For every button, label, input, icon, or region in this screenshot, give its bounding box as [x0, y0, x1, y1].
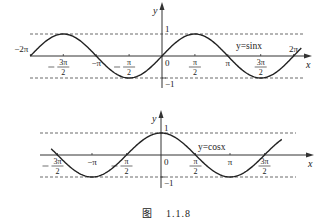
- y-tick-label-neg-1: −1: [165, 79, 175, 89]
- x-tick-denominator: 2: [124, 167, 128, 176]
- x-tick: π2: [190, 153, 202, 176]
- cosine-graph: xy1−103π2−ππ2π2π3π2y=cosx: [40, 110, 314, 188]
- x-tick-label: π: [226, 58, 231, 68]
- x-axis-label: x: [305, 59, 311, 70]
- x-tick: 3π2: [48, 54, 69, 77]
- y-tick-label-neg-1: −1: [164, 178, 174, 188]
- x-tick-label: −2π: [14, 44, 29, 54]
- caption-number: 1.1.8: [166, 208, 191, 219]
- trig-function-figure: xy1−10−2π3π2−ππ2π2π3π22πy=sinx xy1−103π2…: [0, 0, 324, 224]
- x-tick-numerator: π: [124, 157, 128, 166]
- x-tick-numerator: 3π: [257, 58, 265, 67]
- origin-label: 0: [164, 157, 169, 167]
- x-axis-label: x: [307, 158, 313, 169]
- x-tick: 3π2: [42, 153, 63, 176]
- x-axis-arrow-icon: [306, 153, 314, 158]
- x-tick-denominator: 2: [194, 167, 198, 176]
- x-tick-numerator: π: [193, 58, 197, 67]
- x-tick-denominator: 2: [127, 68, 131, 77]
- x-tick-denominator: 2: [259, 68, 263, 77]
- x-tick: π2: [189, 54, 201, 77]
- x-tick: −2π: [14, 44, 30, 56]
- x-tick: 3π2: [255, 54, 267, 77]
- x-tick-label: −π: [87, 157, 97, 167]
- x-tick-denominator: 2: [55, 167, 59, 176]
- x-tick: 2π: [289, 44, 299, 56]
- plots-canvas: xy1−10−2π3π2−ππ2π2π3π22πy=sinx xy1−103π2…: [0, 0, 324, 224]
- figure-caption: 图 1.1.8: [142, 208, 191, 219]
- x-tick: 3π2: [259, 153, 271, 176]
- y-tick-label-1: 1: [164, 123, 169, 133]
- y-axis-label: y: [152, 5, 158, 16]
- x-tick: π2: [111, 153, 132, 176]
- function-label: y=sinx: [236, 41, 262, 51]
- y-tick-label-1: 1: [165, 24, 170, 34]
- x-tick-denominator: 2: [263, 167, 267, 176]
- x-tick-numerator: 3π: [59, 58, 67, 67]
- function-label: y=cosx: [198, 142, 226, 152]
- x-tick: π2: [114, 54, 135, 77]
- x-tick-numerator: π: [193, 157, 197, 166]
- sine-graph: xy1−10−2π3π2−ππ2π2π3π22πy=sinx: [14, 2, 312, 89]
- caption-prefix: 图: [142, 208, 152, 219]
- x-tick-label: π: [228, 157, 233, 167]
- x-axis-arrow-icon: [304, 54, 312, 59]
- x-tick-numerator: π: [127, 58, 131, 67]
- origin-label: 0: [165, 58, 170, 68]
- y-axis-arrow-icon: [159, 110, 164, 118]
- x-tick-denominator: 2: [193, 68, 197, 77]
- y-axis-label: y: [151, 113, 157, 124]
- y-axis-arrow-icon: [160, 2, 165, 10]
- x-tick-denominator: 2: [61, 68, 65, 77]
